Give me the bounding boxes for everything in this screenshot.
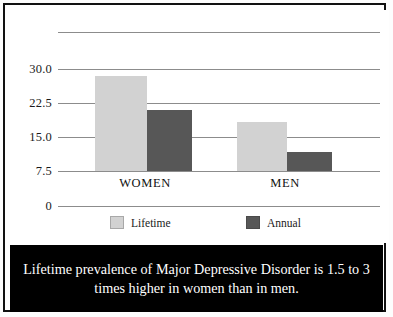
bar-men-annual [287,152,332,171]
legend-label-lifetime: Lifetime [131,217,171,229]
legend-swatch-annual-icon [246,216,260,229]
chart-legend: Lifetime Annual [10,213,389,237]
bar-women-lifetime [95,76,147,171]
x-axis-label-women: WOMEN [80,177,210,190]
gridline-7-5 [58,171,380,172]
bar-chart: 30.0 22.5 15.0 7.5 0 [10,10,389,243]
y-axis-tick-22-5: 22.5 [10,97,52,109]
figure-caption: Lifetime prevalence of Major Depressive … [10,260,383,298]
y-axis-tick-7-5: 7.5 [10,165,52,177]
y-axis-tick-0: 0 [10,200,52,212]
y-axis-tick-30: 30.0 [10,63,52,75]
bar-men-lifetime [237,122,287,171]
legend-label-annual: Annual [267,217,301,229]
legend-item-annual[interactable]: Annual [246,216,301,229]
gridline-30 [58,69,380,70]
gridline-0 [58,206,380,207]
chart-figure: 30.0 22.5 15.0 7.5 0 [0,0,393,317]
y-axis-tick-15: 15.0 [10,131,52,143]
legend-item-lifetime[interactable]: Lifetime [110,216,171,229]
legend-swatch-lifetime-icon [110,216,124,229]
x-axis-label-men: MEN [225,177,345,190]
bar-women-annual [147,110,192,171]
figure-frame: 30.0 22.5 15.0 7.5 0 [3,3,386,312]
gridline-top [58,32,380,33]
caption-band: Lifetime prevalence of Major Depressive … [10,245,383,312]
chart-plot-area: 30.0 22.5 15.0 7.5 0 [10,10,389,243]
